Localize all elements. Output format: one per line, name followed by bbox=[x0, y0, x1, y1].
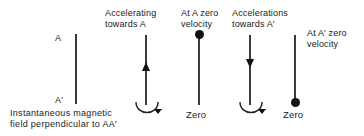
stage-4-label-line-1: Accelerations bbox=[232, 8, 288, 19]
caption-line-1: Instantaneous magnetic bbox=[10, 108, 112, 119]
stage-3-label-line-2: velocity bbox=[181, 19, 212, 30]
physics-diagram-canvas: A A′ Instantaneous magnetic field perpen… bbox=[0, 0, 364, 136]
stage-3-label-line-1: At A zero bbox=[181, 8, 218, 19]
stage-4-down-arrow-icon bbox=[246, 59, 254, 68]
axis-label-a-prime-bottom: A′ bbox=[55, 95, 63, 106]
stage-2-label-line-1: Accelerating bbox=[105, 8, 156, 19]
stage-3-vertical-line bbox=[198, 35, 200, 105]
caption-line-2: field perpendicular to AA′ bbox=[10, 119, 117, 130]
stage-5-zero-label: Zero bbox=[283, 110, 303, 121]
stage-1-vertical-line bbox=[75, 34, 77, 104]
stage-5-position-dot-bottom bbox=[291, 98, 300, 107]
stage-4-vertical-line bbox=[249, 35, 251, 105]
stage-5-label-line-2: velocity bbox=[307, 39, 338, 50]
stage-3-zero-label: Zero bbox=[186, 110, 206, 121]
stage-2-rotation-arrow-icon bbox=[132, 100, 162, 130]
stage-2-up-arrow-icon bbox=[142, 62, 150, 71]
stage-4-rotation-arrow-icon bbox=[236, 100, 266, 130]
stage-3-position-dot-top bbox=[195, 30, 204, 39]
axis-label-a-top: A bbox=[55, 33, 61, 44]
stage-5-label-line-1: At A′ zero bbox=[307, 28, 347, 39]
stage-4-label-line-2: towards A′ bbox=[232, 19, 275, 30]
stage-5-vertical-line bbox=[294, 35, 296, 103]
stage-2-label-line-2: towards A bbox=[105, 19, 146, 30]
